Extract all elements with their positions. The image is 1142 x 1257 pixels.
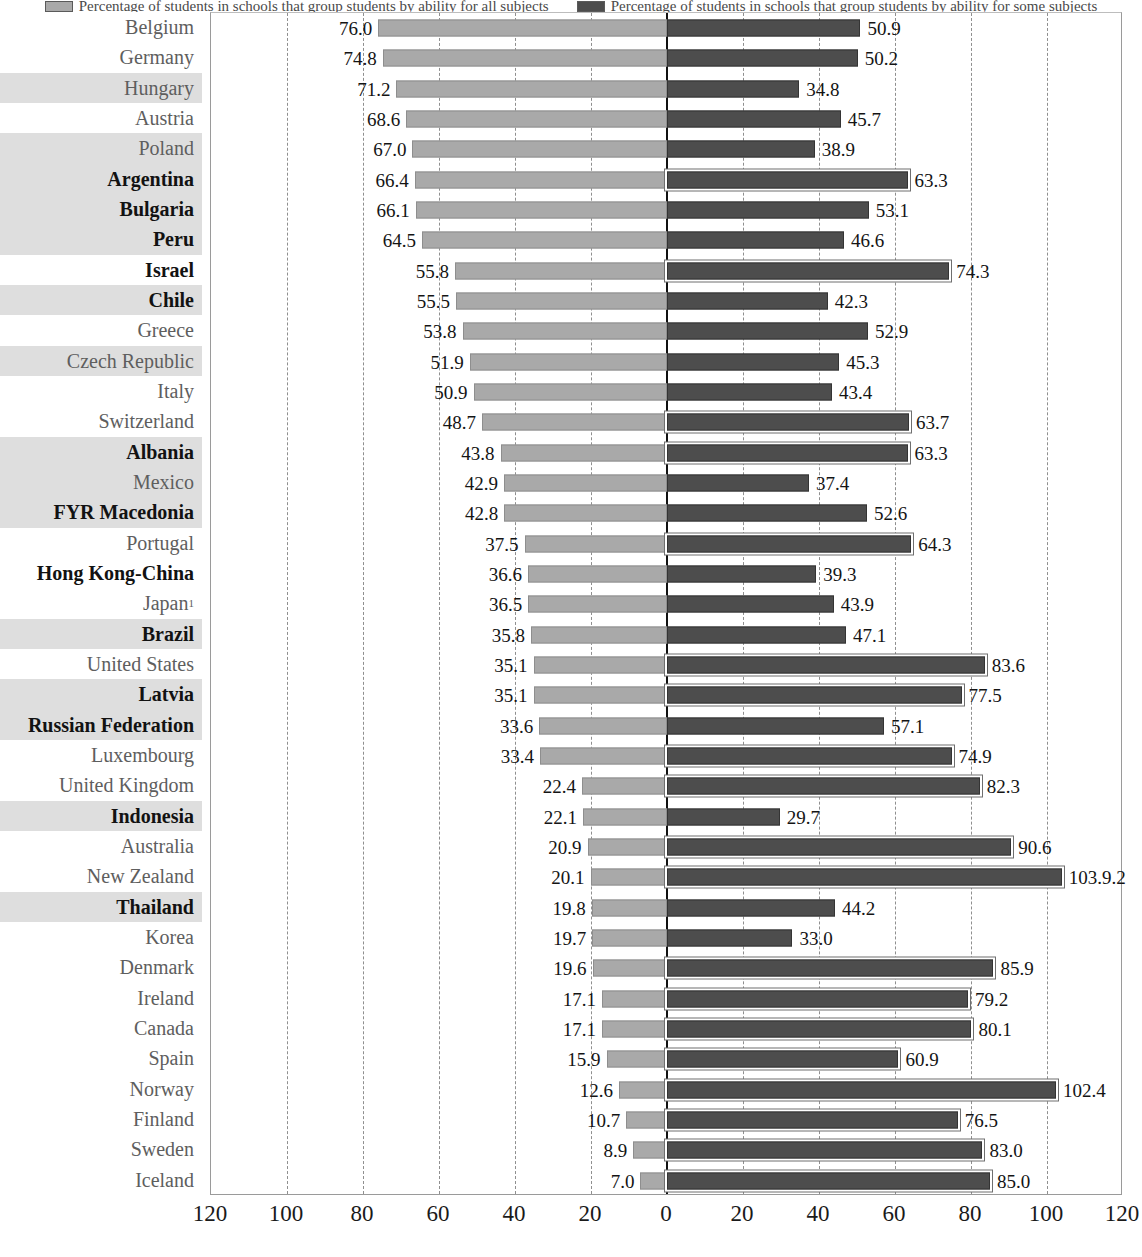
category-label-text: Bulgaria — [120, 199, 194, 219]
value-label-left: 22.4 — [520, 777, 576, 796]
category-label-text: Greece — [137, 320, 194, 340]
bar-row: 68.645.7 — [211, 104, 1121, 134]
value-label-right: 83.0 — [989, 1141, 1022, 1160]
bar-left-peru — [422, 232, 667, 249]
category-label-albania: Albania — [0, 437, 202, 467]
category-label-ireland: Ireland — [0, 983, 202, 1013]
value-label-right: 63.3 — [915, 443, 948, 462]
category-label-text: Chile — [148, 290, 194, 310]
category-label-indonesia: Indonesia — [0, 801, 202, 831]
category-label-peru: Peru — [0, 224, 202, 254]
x-tick-label: 100 — [1029, 1202, 1064, 1225]
bar-right-fyr-macedonia — [667, 505, 867, 522]
category-label-bulgaria: Bulgaria — [0, 194, 202, 224]
category-label-finland: Finland — [0, 1104, 202, 1134]
bar-right-belgium — [667, 20, 860, 37]
bar-left-denmark — [593, 960, 667, 977]
category-label-thailand: Thailand — [0, 892, 202, 922]
bar-left-albania — [501, 444, 667, 461]
bar-right-korea — [667, 930, 792, 947]
value-label-right: 46.6 — [851, 231, 884, 250]
bar-left-hong-kong-china — [528, 566, 667, 583]
category-label-luxembourg: Luxembourg — [0, 740, 202, 770]
category-label-text: Japan — [143, 593, 189, 613]
category-label-text: Canada — [134, 1018, 194, 1038]
bar-row: 19.685.9 — [211, 953, 1121, 983]
bar-right-luxembourg — [667, 748, 952, 765]
bar-row: 7.085.0 — [211, 1166, 1121, 1196]
value-label-left: 66.4 — [353, 170, 409, 189]
bar-left-poland — [412, 141, 667, 158]
chart-legend: Percentage of students in schools that g… — [0, 0, 1142, 12]
bar-left-mexico — [504, 475, 667, 492]
bar-right-norway — [667, 1081, 1056, 1098]
legend-label-right-series: Percentage of students in schools that g… — [611, 1, 1098, 12]
bar-row: 37.564.3 — [211, 529, 1121, 559]
category-label-text: Latvia — [138, 684, 194, 704]
category-label-text: Denmark — [120, 957, 194, 977]
category-label-brazil: Brazil — [0, 619, 202, 649]
bar-row: 55.542.3 — [211, 286, 1121, 316]
bar-row: 22.129.7 — [211, 802, 1121, 832]
bar-left-hungary — [396, 80, 667, 97]
bar-right-austria — [667, 111, 841, 128]
bar-left-finland — [626, 1112, 667, 1129]
bar-right-russian-federation — [667, 717, 884, 734]
category-label-text: Hong Kong-China — [37, 563, 194, 583]
value-label-right: 57.1 — [891, 716, 924, 735]
category-label-gutter: BelgiumGermanyHungaryAustriaPolandArgent… — [0, 12, 210, 1195]
value-label-left: 35.8 — [469, 625, 525, 644]
value-label-left: 19.7 — [530, 929, 586, 948]
category-label-text: Israel — [145, 260, 194, 280]
bar-right-germany — [667, 50, 858, 67]
value-label-right: 47.1 — [853, 625, 886, 644]
value-label-left: 8.9 — [571, 1141, 627, 1160]
value-label-right: 63.3 — [915, 170, 948, 189]
category-label-israel: Israel — [0, 255, 202, 285]
bar-left-austria — [406, 111, 667, 128]
x-tick-label: 120 — [193, 1202, 228, 1225]
bar-row: 53.852.9 — [211, 316, 1121, 346]
category-label-text: Hungary — [124, 78, 194, 98]
legend-item-left-series: Percentage of students in schools that g… — [45, 0, 549, 12]
bar-left-norway — [619, 1081, 667, 1098]
value-label-right: 103.9.2 — [1069, 868, 1126, 887]
bar-left-canada — [602, 1021, 667, 1038]
bar-right-australia — [667, 839, 1011, 856]
x-tick-label: 60 — [883, 1202, 906, 1225]
category-label-text: Ireland — [137, 988, 194, 1008]
category-label-belgium: Belgium — [0, 12, 202, 42]
value-label-right: 52.6 — [874, 504, 907, 523]
x-tick-label: 60 — [427, 1202, 450, 1225]
bar-row: 33.474.9 — [211, 741, 1121, 771]
value-label-right: 74.9 — [959, 747, 992, 766]
bar-row: 66.463.3 — [211, 165, 1121, 195]
category-label-greece: Greece — [0, 315, 202, 345]
value-label-left: 43.8 — [439, 443, 495, 462]
category-label-text: Albania — [126, 442, 194, 462]
category-label-hungary: Hungary — [0, 73, 202, 103]
x-tick-label: 40 — [503, 1202, 526, 1225]
bar-right-canada — [667, 1021, 971, 1038]
bar-row: 35.847.1 — [211, 620, 1121, 650]
bar-row: 10.776.5 — [211, 1105, 1121, 1135]
x-tick-label: 100 — [269, 1202, 304, 1225]
bar-left-israel — [455, 262, 667, 279]
category-label-russian-federation: Russian Federation — [0, 710, 202, 740]
category-label-united-kingdom: United Kingdom — [0, 770, 202, 800]
bar-row: 42.852.6 — [211, 498, 1121, 528]
value-label-left: 37.5 — [463, 534, 519, 553]
category-label-poland: Poland — [0, 133, 202, 163]
x-tick-label: 20 — [731, 1202, 754, 1225]
bar-row: 8.983.0 — [211, 1135, 1121, 1165]
value-label-left: 12.6 — [557, 1080, 613, 1099]
value-label-left: 22.1 — [521, 807, 577, 826]
category-label-spain: Spain — [0, 1043, 202, 1073]
category-label-italy: Italy — [0, 376, 202, 406]
category-label-denmark: Denmark — [0, 952, 202, 982]
x-axis-ticks: 12010080604020020406080100120 — [210, 1202, 1122, 1242]
bar-row: 36.543.9 — [211, 589, 1121, 619]
bar-right-czech-republic — [667, 353, 839, 370]
category-label-argentina: Argentina — [0, 164, 202, 194]
x-tick-label: 80 — [351, 1202, 374, 1225]
